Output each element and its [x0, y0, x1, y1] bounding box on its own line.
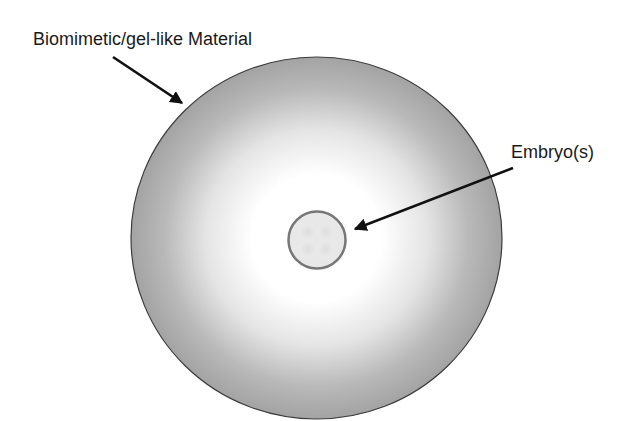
- embryo-label: Embryo(s): [511, 143, 594, 161]
- material-label: Biomimetic/gel-like Material: [33, 30, 252, 48]
- material-arrow: [113, 57, 182, 103]
- embryo: [289, 212, 346, 269]
- embryo-cell: [317, 240, 335, 258]
- diagram-svg: [0, 0, 636, 421]
- embryo-cell: [317, 223, 335, 241]
- embryo-cell: [299, 223, 317, 241]
- diagram-canvas: Biomimetic/gel-like Material Embryo(s): [0, 0, 636, 421]
- embryo-cell: [299, 240, 317, 258]
